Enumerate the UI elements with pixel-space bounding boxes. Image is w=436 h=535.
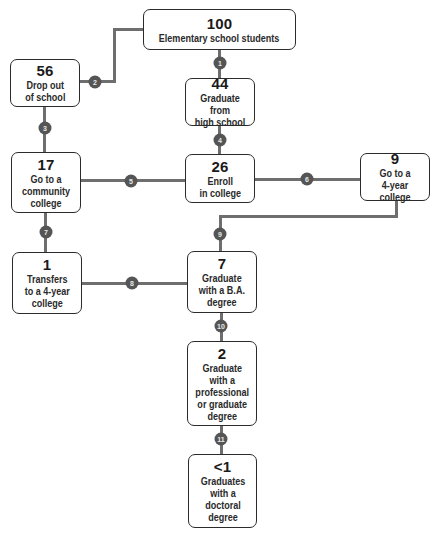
step-badge-7: 7	[40, 226, 53, 239]
node-enroll-college: 26 Enroll in college	[185, 154, 255, 203]
node-label: Graduates with a doctoral degree	[200, 475, 245, 523]
node-value: 44	[211, 76, 228, 92]
node-graduate-degree: 2 Graduate with a professional or gradua…	[187, 341, 257, 426]
node-label: Graduate with a B.A. degree	[199, 272, 245, 308]
node-community-college: 17 Go to a community college	[11, 152, 81, 213]
node-label: Go to a community college	[22, 173, 70, 209]
step-badge-5: 5	[125, 175, 138, 188]
node-value: 56	[36, 63, 53, 79]
connector-9-7-h	[219, 215, 398, 218]
node-label: Enroll in college	[199, 175, 241, 199]
node-value: 9	[391, 151, 400, 167]
node-label: Graduate from high school	[191, 92, 249, 128]
node-label: Drop out of school	[25, 79, 65, 103]
step-badge-6: 6	[301, 173, 314, 186]
step-badge-11: 11	[215, 433, 228, 446]
node-value: <1	[214, 459, 232, 475]
step-badge-8: 8	[126, 277, 139, 290]
node-label: Go to a 4-year college	[366, 167, 424, 203]
connector-100-56-h1	[113, 28, 144, 31]
connector-100-56-v	[113, 28, 116, 83]
node-value: 7	[218, 256, 227, 272]
node-elementary-students: 100 Elementary school students	[143, 9, 296, 50]
step-badge-1: 1	[214, 57, 227, 70]
node-value: 1	[43, 257, 52, 273]
step-badge-9: 9	[214, 228, 227, 241]
node-high-school-grad: 44 Graduate from high school	[185, 78, 255, 126]
node-label: Elementary school students	[159, 32, 279, 44]
node-ba-degree: 7 Graduate with a B.A. degree	[187, 251, 257, 313]
node-value: 100	[207, 16, 233, 32]
node-value: 26	[211, 159, 228, 175]
step-badge-10: 10	[215, 320, 228, 333]
step-badge-3: 3	[39, 122, 52, 135]
node-four-year-college: 9 Go to a 4-year college	[360, 153, 430, 201]
node-drop-out: 56 Drop out of school	[10, 59, 80, 107]
node-value: 17	[37, 157, 54, 173]
node-value: 2	[218, 346, 227, 362]
step-badge-2: 2	[89, 76, 102, 89]
node-doctoral-degree: <1 Graduates with a doctoral degree	[188, 454, 257, 528]
node-label: Transfers to a 4-year college	[24, 273, 69, 309]
step-badge-4: 4	[214, 134, 227, 147]
node-transfers: 1 Transfers to a 4-year college	[12, 252, 82, 314]
node-label: Graduate with a professional or graduate…	[195, 362, 249, 422]
